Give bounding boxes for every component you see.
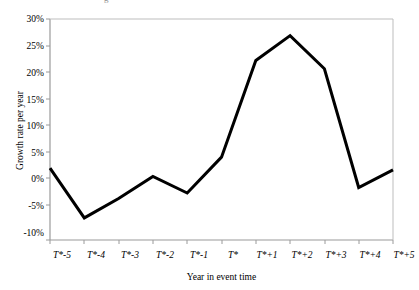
data-series-line [50,36,393,218]
x-tick-marks [50,240,393,244]
